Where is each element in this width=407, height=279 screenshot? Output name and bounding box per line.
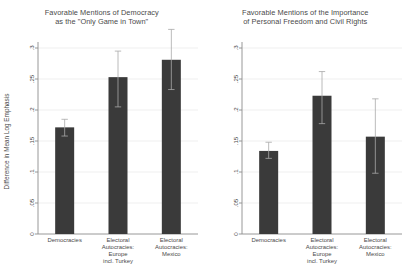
bars-group: DemocraciesElectoralAutocracies:Europein… [251, 72, 391, 264]
category-label: ElectoralAutocracies:Mexico [155, 237, 188, 257]
bar [259, 151, 278, 234]
bars-group: DemocraciesElectoralAutocracies:Europein… [47, 29, 187, 264]
chart-panel-2: Favorable Mentions of the Importance of … [204, 0, 407, 279]
y-tick-label: .2 [231, 107, 238, 113]
y-tick-label: .25 [231, 74, 238, 83]
chart-panel-1: Favorable Mentions of Democracy as the "… [0, 0, 204, 279]
bar [55, 127, 74, 234]
plot-area: 0.05.1.15.2.25.3DemocraciesElectoralAuto… [204, 0, 407, 279]
y-tick-label: .05 [231, 198, 238, 207]
y-tick-label: .2 [28, 107, 35, 113]
y-tick-label: .3 [231, 45, 238, 51]
y-tick-label: .1 [231, 169, 238, 175]
y-tick-label: .3 [28, 45, 35, 51]
category-label: Democracies [47, 237, 81, 243]
category-label: ElectoralAutocracies:Europeincl. Turkey [102, 237, 135, 264]
y-tick-label: .1 [28, 169, 35, 175]
y-axis-ticks: 0.05.1.15.2.25.3 [231, 45, 241, 236]
y-tick-label: .25 [28, 74, 35, 83]
figure-panels: Favorable Mentions of Democracy as the "… [0, 0, 407, 279]
y-axis-ticks: 0.05.1.15.2.25.3 [28, 45, 38, 236]
y-tick-label: .15 [231, 136, 238, 145]
y-tick-label: .15 [28, 136, 35, 145]
y-tick-label: .05 [28, 198, 35, 207]
plot-area: 0.05.1.15.2.25.3DemocraciesElectoralAuto… [0, 0, 204, 279]
y-tick-label: 0 [231, 232, 238, 236]
category-label: ElectoralAutocracies:Mexico [359, 237, 392, 257]
category-label: Democracies [251, 237, 285, 243]
category-label: ElectoralAutocracies:Europeincl. Turkey [305, 237, 338, 264]
y-tick-label: 0 [28, 232, 35, 236]
